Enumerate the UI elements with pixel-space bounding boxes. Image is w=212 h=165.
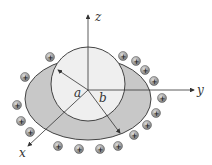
svg-text:+: +: [116, 143, 122, 151]
z-axis-label: z: [94, 10, 102, 24]
x-axis-label: x: [19, 146, 26, 160]
charge-icon: +: [130, 131, 139, 140]
svg-text:+: +: [23, 74, 29, 82]
svg-text:+: +: [98, 146, 104, 154]
charge-icon: +: [152, 109, 161, 118]
charge-icon: +: [158, 94, 167, 103]
charge-icon: +: [119, 52, 128, 61]
charge-icon: +: [54, 142, 63, 151]
svg-text:+: +: [48, 54, 54, 62]
charge-icon: +: [114, 142, 123, 151]
charge-icon: +: [96, 145, 105, 154]
svg-text:+: +: [56, 143, 62, 151]
charge-icon: +: [150, 77, 159, 86]
svg-text:+: +: [160, 95, 166, 103]
charge-icon: +: [132, 57, 141, 66]
charge-icon: +: [21, 73, 30, 82]
svg-text:+: +: [134, 58, 140, 66]
charge-icon: +: [26, 128, 35, 137]
svg-text:+: +: [28, 129, 34, 137]
charge-icon: +: [17, 117, 26, 126]
diagram-canvas: z y x a b + + + + + + + + + + + + + + + …: [0, 0, 212, 165]
svg-text:+: +: [15, 102, 21, 110]
svg-text:+: +: [132, 132, 138, 140]
svg-text:+: +: [154, 110, 160, 118]
svg-text:+: +: [145, 122, 151, 130]
svg-text:+: +: [77, 146, 83, 154]
charge-icon: +: [13, 101, 22, 110]
y-axis-label: y: [196, 83, 204, 97]
svg-text:+: +: [121, 53, 127, 61]
svg-text:+: +: [19, 118, 25, 126]
radius-b-label: b: [99, 91, 107, 105]
charge-icon: +: [143, 121, 152, 130]
svg-text:+: +: [152, 78, 158, 86]
charge-icon: +: [46, 53, 55, 62]
charge-icon: +: [141, 66, 150, 75]
radius-a-label: a: [74, 86, 81, 100]
svg-text:+: +: [143, 67, 149, 75]
charge-icon: +: [75, 145, 84, 154]
